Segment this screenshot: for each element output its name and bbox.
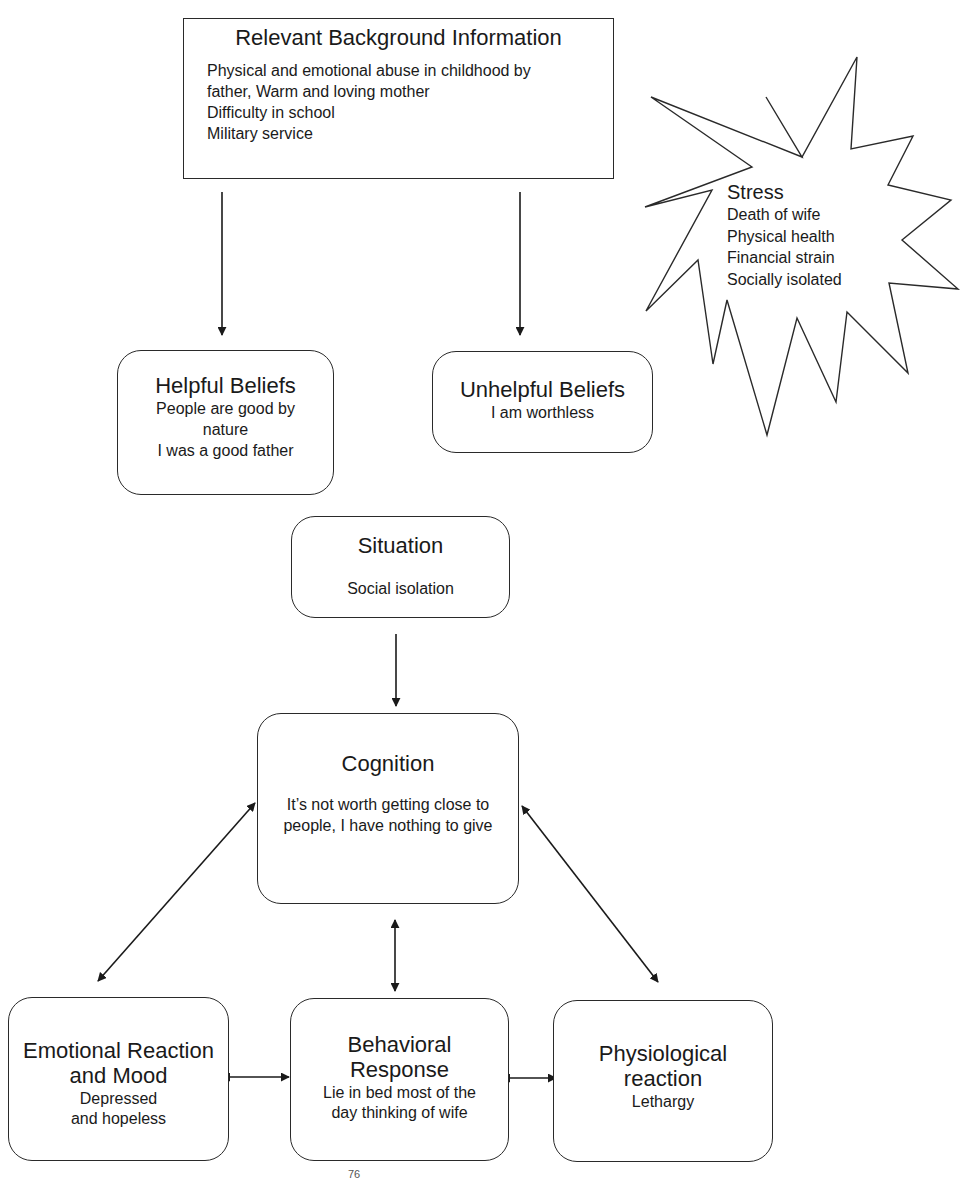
behavioral-line: day thinking of wife bbox=[291, 1103, 508, 1124]
emotional-reaction-box: Emotional Reaction and Mood Depressed an… bbox=[8, 997, 229, 1161]
background-info-line: Military service bbox=[207, 124, 613, 145]
helpful-beliefs-title: Helpful Beliefs bbox=[118, 373, 333, 399]
caption-superscript: 76 bbox=[348, 1168, 360, 1180]
stress-content: Stress Death of wife Physical health Fin… bbox=[727, 180, 842, 290]
cognition-text: It’s not worth getting close to people, … bbox=[258, 795, 518, 837]
situation-title: Situation bbox=[292, 533, 509, 559]
helpful-belief-line: People are good by bbox=[118, 399, 333, 420]
stress-item: Physical health bbox=[727, 226, 842, 248]
emotional-reaction-title: Emotional Reaction and Mood bbox=[9, 1038, 228, 1089]
emotional-line: Depressed bbox=[9, 1089, 228, 1110]
cognition-title: Cognition bbox=[258, 751, 518, 777]
background-info-list: Physical and emotional abuse in childhoo… bbox=[207, 61, 613, 144]
physiological-reaction-box: Physiological reaction Lethargy bbox=[553, 1000, 773, 1162]
emotional-line: and hopeless bbox=[9, 1109, 228, 1130]
helpful-beliefs-box: Helpful Beliefs People are good by natur… bbox=[117, 350, 334, 495]
unhelpful-beliefs-list: I am worthless bbox=[433, 403, 652, 424]
figure-caption-clipped: 76 bbox=[8, 1168, 360, 1180]
unhelpful-belief-line: I am worthless bbox=[433, 403, 652, 424]
emotional-title-line: Emotional Reaction bbox=[9, 1038, 228, 1063]
situation-text: Social isolation bbox=[292, 579, 509, 600]
emotional-title-line: and Mood bbox=[9, 1063, 228, 1088]
behavioral-title-line: Response bbox=[291, 1057, 508, 1082]
stress-item: Socially isolated bbox=[727, 269, 842, 291]
background-info-line: father, Warm and loving mother bbox=[207, 82, 613, 103]
helpful-belief-line: nature bbox=[118, 420, 333, 441]
cognition-box: Cognition It’s not worth getting close t… bbox=[257, 713, 519, 904]
physiological-reaction-text: Lethargy bbox=[554, 1092, 772, 1113]
physiological-title-line: Physiological bbox=[554, 1041, 772, 1066]
unhelpful-beliefs-title: Unhelpful Beliefs bbox=[433, 377, 652, 403]
unhelpful-beliefs-box: Unhelpful Beliefs I am worthless bbox=[432, 351, 653, 453]
background-info-title: Relevant Background Information bbox=[184, 25, 613, 51]
background-info-line: Physical and emotional abuse in childhoo… bbox=[207, 61, 613, 82]
physiological-title-line: reaction bbox=[554, 1066, 772, 1091]
emotional-reaction-text: Depressed and hopeless bbox=[9, 1089, 228, 1131]
physiological-line: Lethargy bbox=[554, 1092, 772, 1113]
stress-item: Financial strain bbox=[727, 247, 842, 269]
arrow-cognition-emotional bbox=[98, 803, 255, 981]
behavioral-response-title: Behavioral Response bbox=[291, 1032, 508, 1083]
background-info-line: Difficulty in school bbox=[207, 103, 613, 124]
helpful-belief-line: I was a good father bbox=[118, 441, 333, 462]
cognition-line: people, I have nothing to give bbox=[258, 816, 518, 837]
stress-title: Stress bbox=[727, 180, 842, 204]
cognition-line: It’s not worth getting close to bbox=[258, 795, 518, 816]
background-info-box: Relevant Background Information Physical… bbox=[183, 18, 614, 179]
behavioral-response-text: Lie in bed most of the day thinking of w… bbox=[291, 1083, 508, 1125]
physiological-reaction-title: Physiological reaction bbox=[554, 1041, 772, 1092]
stress-list: Death of wife Physical health Financial … bbox=[727, 204, 842, 290]
helpful-beliefs-list: People are good by nature I was a good f… bbox=[118, 399, 333, 461]
behavioral-title-line: Behavioral bbox=[291, 1032, 508, 1057]
behavioral-line: Lie in bed most of the bbox=[291, 1083, 508, 1104]
behavioral-response-box: Behavioral Response Lie in bed most of t… bbox=[290, 998, 509, 1161]
situation-box: Situation Social isolation bbox=[291, 516, 510, 618]
arrow-cognition-physiological bbox=[522, 806, 658, 982]
stress-item: Death of wife bbox=[727, 204, 842, 226]
